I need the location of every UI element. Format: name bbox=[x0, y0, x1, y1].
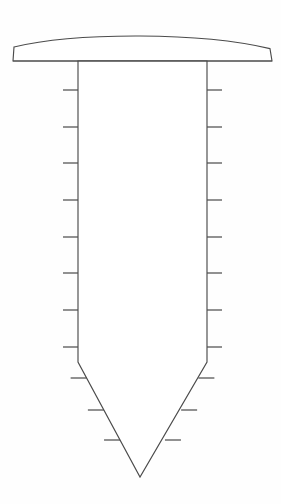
figure-canvas bbox=[0, 0, 281, 504]
fastener-drawing bbox=[0, 0, 281, 504]
fastener-head bbox=[13, 36, 272, 61]
thread-ticks-left bbox=[63, 90, 78, 347]
thread-ticks-right bbox=[207, 90, 222, 347]
fastener-shank-and-point bbox=[78, 61, 207, 477]
